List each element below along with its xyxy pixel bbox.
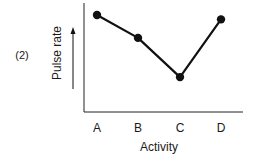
x-tick-a: A	[93, 121, 101, 135]
data-point-c	[176, 73, 184, 81]
arrow-up-icon	[71, 27, 76, 89]
y-axis-label: Pulse rate	[50, 26, 64, 80]
data-point-a	[93, 11, 101, 19]
x-axis-label: Activity	[140, 140, 178, 154]
x-tick-labels: ABCD	[93, 121, 226, 135]
x-tick-d: D	[217, 121, 226, 135]
figure-label: (2)	[15, 49, 28, 61]
data-points	[93, 11, 225, 82]
data-point-b	[134, 34, 142, 42]
pulse-rate-line	[97, 15, 221, 77]
data-point-d	[217, 15, 225, 23]
x-tick-c: C	[176, 121, 185, 135]
x-tick-b: B	[134, 121, 142, 135]
chart: (2) Pulse rate ABCD Activity	[0, 0, 257, 160]
